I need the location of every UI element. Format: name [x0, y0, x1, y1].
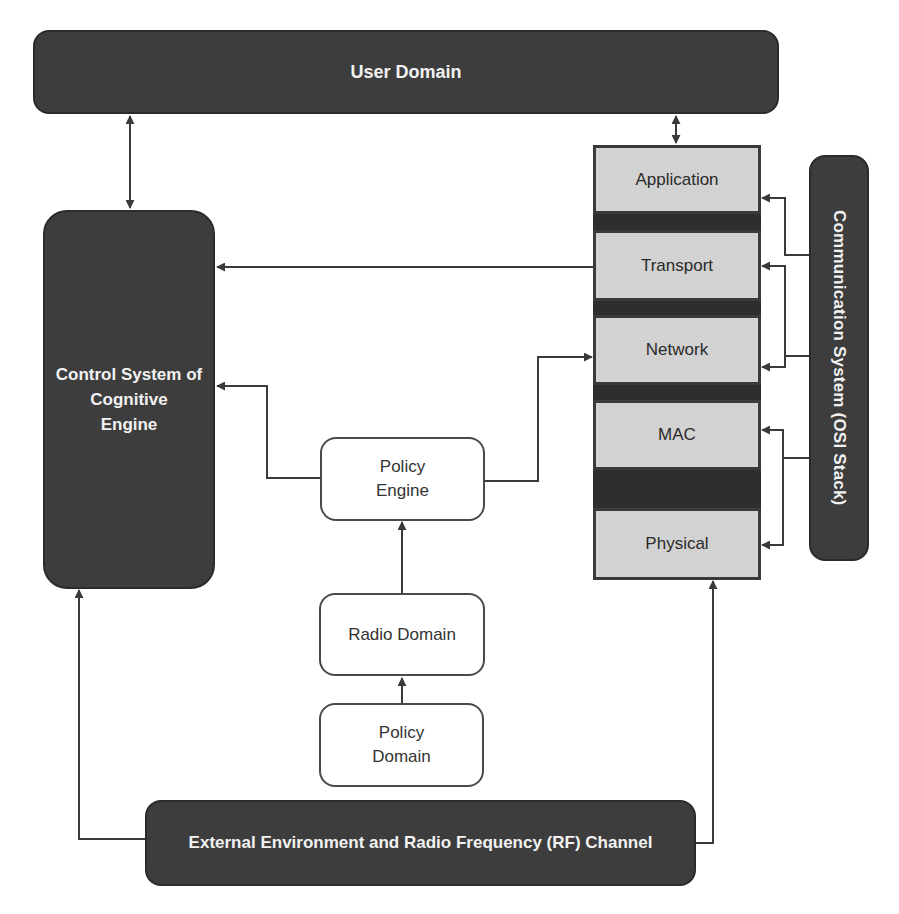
- control-system-label-line-2: Cognitive: [90, 387, 167, 412]
- external-environment-label: External Environment and Radio Frequency…: [189, 833, 653, 853]
- osi-layer-transport: Transport: [593, 230, 761, 301]
- external-environment-box: External Environment and Radio Frequency…: [145, 800, 696, 886]
- policy-domain-label-line-1: Policy: [379, 721, 424, 745]
- osi-layer-label: MAC: [658, 425, 696, 445]
- policy-domain-box: Policy Domain: [319, 703, 484, 787]
- osi-layer-label: Network: [646, 340, 708, 360]
- osi-layer-label: Application: [635, 170, 718, 190]
- osi-layer-physical: Physical: [593, 508, 761, 580]
- arrow-comm-transport: [762, 266, 785, 356]
- arrow-external-physical: [695, 581, 713, 843]
- policy-engine-label-line-1: Policy: [380, 455, 425, 479]
- osi-layer-application: Application: [593, 145, 761, 214]
- osi-layer-mac: MAC: [593, 400, 761, 470]
- control-system-box: Control System of Cognitive Engine: [43, 210, 215, 589]
- communication-system-box: Communication System (OSI Stack): [809, 155, 869, 561]
- user-domain-box: User Domain: [33, 30, 779, 114]
- arrow-comm-physical: [762, 458, 783, 545]
- control-system-label-line-1: Control System of: [56, 362, 202, 387]
- arrow-comm-network: [762, 356, 785, 367]
- radio-domain-label: Radio Domain: [348, 623, 456, 647]
- policy-domain-label-line-2: Domain: [372, 745, 431, 769]
- arrow-policyengine-control: [217, 386, 320, 478]
- control-system-label-line-3: Engine: [101, 412, 158, 437]
- osi-layer-label: Physical: [645, 534, 708, 554]
- user-domain-label: User Domain: [350, 62, 461, 83]
- arrow-comm-application: [762, 198, 809, 255]
- arrow-comm-mac: [762, 430, 783, 458]
- policy-engine-label-line-2: Engine: [376, 479, 429, 503]
- osi-layer-network: Network: [593, 315, 761, 385]
- arrow-external-control: [79, 590, 145, 839]
- arrow-policyengine-network: [484, 357, 592, 481]
- communication-system-label: Communication System (OSI Stack): [829, 210, 849, 505]
- osi-layer-label: Transport: [641, 256, 713, 276]
- radio-domain-box: Radio Domain: [319, 593, 485, 676]
- policy-engine-box: Policy Engine: [320, 437, 485, 521]
